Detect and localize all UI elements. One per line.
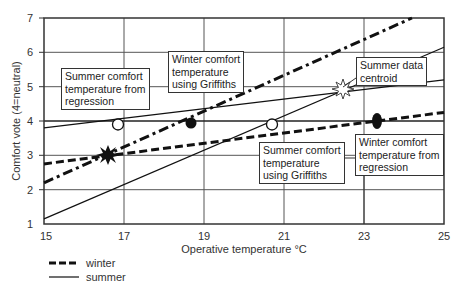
y-tick-6: 6 xyxy=(27,46,33,58)
y-tick-1: 1 xyxy=(27,218,33,230)
annotation-line: using Griffiths xyxy=(172,78,240,91)
annotation-summer-regression: Summer comfort temperature from regressi… xyxy=(61,68,150,110)
summer-griffiths-open-circle-marker xyxy=(267,119,278,130)
y-tick-3: 3 xyxy=(27,149,33,161)
x-tick-21: 21 xyxy=(278,230,290,242)
y-tick-2: 2 xyxy=(27,184,33,196)
annotation-summer-griffiths: Summer comfort temperature using Griffit… xyxy=(259,142,345,184)
annotation-line: regression xyxy=(65,95,146,108)
legend-item-winter: winter xyxy=(48,256,126,270)
annotation-line: temperature xyxy=(172,66,240,79)
y-axis-label: Comfort vote (4=neutral) xyxy=(10,61,22,181)
y-tick-7: 7 xyxy=(27,12,33,24)
annotation-line: Winter comfort xyxy=(172,53,240,66)
annotation-line: centroid xyxy=(360,72,423,85)
annotation-line: temperature from xyxy=(65,83,146,96)
x-tick-25: 25 xyxy=(438,230,450,242)
x-tick-17: 17 xyxy=(118,230,130,242)
y-tick-4: 4 xyxy=(27,115,33,127)
legend-item-summer: summer xyxy=(48,270,126,284)
legend-label-summer: summer xyxy=(86,271,126,283)
annotation-line: Summer data xyxy=(360,59,423,72)
y-axis-tick-labels: 7 6 5 4 3 2 1 xyxy=(27,12,33,230)
x-tick-19: 19 xyxy=(198,230,210,242)
x-tick-23: 23 xyxy=(358,230,370,242)
annotation-line: Winter comfort xyxy=(359,136,440,149)
series-lines xyxy=(44,18,444,219)
dashed-line-swatch-icon xyxy=(48,259,80,267)
annotation-line: temperature from xyxy=(359,149,440,162)
winter-regression-filled-ellipse-marker xyxy=(372,113,382,129)
annotation-line: Summer comfort xyxy=(65,70,146,83)
legend: winter summer xyxy=(48,256,126,284)
annotation-line: regression xyxy=(359,161,440,174)
winter-griffiths-filled-circle-marker xyxy=(186,118,197,129)
annotation-line: Summer comfort xyxy=(263,144,341,157)
y-tick-5: 5 xyxy=(27,81,33,93)
x-axis-label: Operative temperature °C xyxy=(181,243,307,255)
annotation-line: using Griffiths xyxy=(263,169,341,182)
legend-label-winter: winter xyxy=(86,257,115,269)
solid-line-swatch-icon xyxy=(48,273,80,281)
annotation-summer-centroid: Summer data centroid xyxy=(356,57,427,86)
x-tick-15: 15 xyxy=(40,230,52,242)
winter-centroid-star-icon xyxy=(96,145,120,165)
annotation-winter-regression: Winter comfort temperature from regressi… xyxy=(355,134,444,176)
annotation-line: temperature xyxy=(263,157,341,170)
summer-regression-open-circle-marker xyxy=(113,119,124,130)
annotation-winter-griffiths: Winter comfort temperature using Griffit… xyxy=(168,51,244,93)
x-axis-tick-labels: 15 17 19 21 23 25 xyxy=(40,230,450,242)
